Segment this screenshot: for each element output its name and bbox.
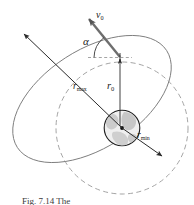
orbit-diagram-svg [0,0,194,205]
angle-alpha-label: α [83,36,89,47]
orbit-figure: v0 α rmax r0 rmin Fig. 7.14 The [0,0,194,205]
r-max-label: rmax [73,82,87,93]
r-zero-label: r0 [107,81,114,92]
figure-caption: Fig. 7.14 The [22,196,70,205]
r-min-label: rmin [137,131,150,142]
velocity-label: v0 [96,10,103,21]
elliptical-orbit-path [0,9,193,188]
velocity-vector [89,19,120,57]
